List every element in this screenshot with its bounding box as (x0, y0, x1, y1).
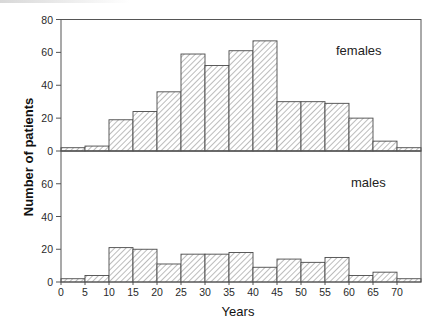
x-tick-label: 70 (391, 286, 403, 298)
x-axis: 0510152025303540455055606570 (58, 282, 403, 298)
x-tick-label: 30 (199, 286, 211, 298)
y-tick-label: 0 (47, 145, 53, 157)
x-tick-label: 60 (343, 286, 355, 298)
x-axis-title: Years (222, 304, 255, 319)
y-tick-label: 60 (41, 178, 53, 190)
females-y-axis: 020406080 (41, 14, 61, 158)
males-bar-45-50 (277, 259, 301, 282)
males-bar-20-25 (157, 264, 181, 282)
y-tick-label: 0 (47, 276, 53, 288)
males-bar-5-10 (85, 275, 109, 282)
y-tick-label: 40 (41, 79, 53, 91)
males-y-axis: 0204060 (41, 178, 61, 288)
x-tick-label: 55 (319, 286, 331, 298)
females-bar-55-60 (325, 103, 349, 151)
females-label: females (336, 43, 382, 58)
males-bar-60-65 (349, 275, 373, 282)
males-bar-35-40 (229, 253, 253, 282)
y-tick-label: 80 (41, 14, 53, 26)
x-tick-label: 35 (223, 286, 235, 298)
males-bar-15-20 (133, 249, 157, 282)
males-bar-10-15 (109, 248, 133, 282)
males-bar-40-45 (253, 267, 277, 282)
females-bar-20-25 (157, 92, 181, 151)
females-bar-30-35 (205, 66, 229, 151)
females-bar-15-20 (133, 112, 157, 151)
x-tick-label: 15 (127, 286, 139, 298)
x-tick-label: 0 (58, 286, 64, 298)
females-bar-35-40 (229, 51, 253, 151)
x-tick-label: 45 (271, 286, 283, 298)
x-tick-label: 65 (367, 286, 379, 298)
males-bar-50-55 (301, 262, 325, 282)
y-axis-title: Number of patients (21, 98, 36, 216)
y-tick-label: 60 (41, 46, 53, 58)
y-tick-label: 40 (41, 211, 53, 223)
x-tick-label: 5 (82, 286, 88, 298)
females-bar-50-55 (301, 102, 325, 151)
males-bar-30-35 (205, 254, 229, 282)
males-label: males (351, 175, 386, 190)
males-bar-65-70 (373, 272, 397, 282)
females-bar-40-45 (253, 41, 277, 151)
y-tick-label: 20 (41, 243, 53, 255)
females-bar-5-10 (85, 146, 109, 151)
males-bars (61, 248, 421, 282)
x-tick-label: 50 (295, 286, 307, 298)
x-tick-label: 25 (175, 286, 187, 298)
x-tick-label: 20 (151, 286, 163, 298)
females-bar-65-70 (373, 141, 397, 151)
histogram-chart: 020406080 0204060 0510152025303540455055… (0, 0, 441, 332)
females-bar-25-30 (181, 54, 205, 151)
females-bar-45-50 (277, 102, 301, 151)
males-bar-25-30 (181, 254, 205, 282)
x-tick-label: 10 (103, 286, 115, 298)
females-bar-10-15 (109, 120, 133, 151)
x-tick-label: 40 (247, 286, 259, 298)
y-tick-label: 20 (41, 112, 53, 124)
males-bar-55-60 (325, 257, 349, 282)
females-bar-60-65 (349, 118, 373, 151)
